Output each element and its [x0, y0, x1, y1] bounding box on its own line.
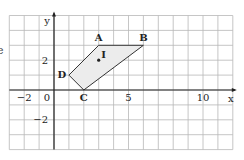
y-tick-label: 2 — [42, 55, 48, 66]
y-axis-label: y — [43, 15, 50, 26]
y-tick-label: −2 — [33, 114, 48, 125]
vertex-label-d: D — [58, 69, 67, 80]
x-axis-arrow-icon — [232, 88, 237, 92]
vertex-label-c: C — [80, 92, 88, 103]
y-axis-arrow-icon — [52, 12, 56, 17]
labels: xy−205102−2ABCDI — [17, 15, 234, 126]
vertex-label-a: A — [94, 32, 103, 43]
x-tick-label: −2 — [17, 92, 32, 103]
x-tick-label: 5 — [125, 92, 131, 103]
vertex-label-b: B — [139, 32, 147, 43]
x-tick-label: 10 — [197, 92, 210, 103]
grid-lines — [9, 16, 233, 150]
x-axis-label: x — [228, 93, 234, 104]
point-label-i: I — [101, 49, 106, 60]
x-tick-label: 0 — [44, 92, 50, 103]
coordinate-plane: xy−205102−2ABCDI — [0, 0, 244, 160]
quadrilateral-abcd — [69, 45, 143, 90]
point-i-dot — [97, 59, 100, 62]
